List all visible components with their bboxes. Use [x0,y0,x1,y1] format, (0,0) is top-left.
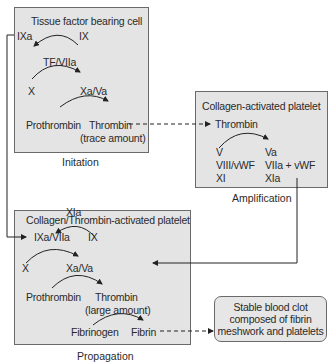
propagation-label: Propagation [77,350,134,362]
amplification-xia: XIa [265,172,280,184]
amplification-label: Amplification [232,192,292,204]
propagation-title: Collagen/Thrombin-activated platelet [26,214,190,226]
initiation-xa-va: Xa/Va [80,85,107,97]
propagation-large-amount: (large amount) [85,304,150,316]
clot-line-2: composed of fibrin [214,313,327,325]
initiation-ixa: IXa [17,30,32,42]
amplification-thrombin: Thrombin [215,118,258,130]
propagation-fibrin: Fibrin [131,326,156,338]
propagation-ix: IX [88,231,98,243]
initiation-trace-amount: (trace amount) [80,132,145,144]
clot-line-3: meshwork and platelets [214,325,327,337]
initiation-ix: IX [79,30,89,42]
propagation-xia: XIa [66,206,81,218]
amplification-title: Collagen-activated platelet [202,100,320,112]
initiation-tf-viia: TF/VIIa [43,56,76,68]
propagation-xa-va: Xa/Va [66,262,93,274]
amplification-viii-vwf: VIII/vWF [216,159,255,171]
amplification-xi: XI [216,172,226,184]
amplification-v: V [216,146,223,158]
propagation-prothrombin: Prothrombin [26,291,81,303]
initiation-label: Initation [62,156,99,168]
propagation-thrombin: Thrombin [95,291,138,303]
initiation-x: X [28,85,35,97]
propagation-fibrinogen: Fibrinogen [71,326,119,338]
propagation-ixa-viia: IXa/VIIa [34,231,70,243]
amplification-va: Va [265,146,277,158]
initiation-title: Tissue factor bearing cell [31,15,142,27]
clot-line-1: Stable blood clot [214,301,327,313]
initiation-prothrombin: Prothrombin [26,119,81,131]
initiation-thrombin: Thrombin [89,119,132,131]
amplification-viia-vwf: VIIa + vWF [265,159,315,171]
propagation-x: X [22,262,29,274]
